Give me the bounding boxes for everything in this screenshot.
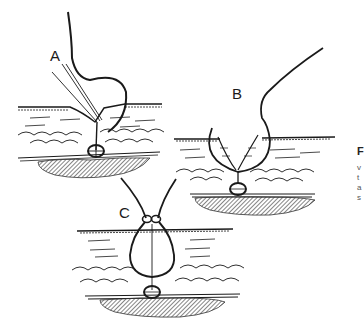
caption-fragment-line4: s bbox=[357, 194, 361, 202]
panel-b bbox=[174, 48, 335, 215]
panel-a bbox=[18, 12, 164, 178]
panel-label-b: B bbox=[232, 86, 242, 101]
caption-fragment-title: F bbox=[357, 146, 364, 157]
panel-label-a: A bbox=[50, 48, 60, 63]
caption-fragment-line1: v bbox=[357, 164, 361, 172]
panel-label-c: C bbox=[119, 205, 130, 220]
caption-fragment-line3: a bbox=[357, 184, 361, 192]
caption-fragment-line2: t bbox=[357, 174, 359, 182]
